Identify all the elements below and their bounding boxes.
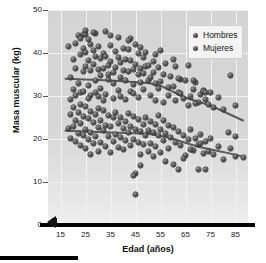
data-point — [178, 91, 183, 96]
data-point — [83, 146, 88, 151]
data-point — [123, 97, 128, 102]
data-point — [191, 87, 196, 92]
data-point — [166, 93, 171, 98]
data-point — [113, 110, 118, 115]
data-point — [71, 87, 76, 92]
data-point — [103, 54, 108, 59]
data-point — [131, 173, 136, 178]
data-point — [91, 48, 96, 53]
x-tick-label: 55 — [149, 231, 173, 239]
data-point — [81, 114, 86, 119]
data-point — [196, 167, 201, 172]
data-point — [71, 105, 76, 110]
data-point — [221, 157, 226, 162]
data-point — [163, 159, 168, 164]
data-point — [98, 86, 103, 91]
legend-marker-icon — [193, 46, 198, 51]
data-point — [136, 140, 141, 145]
data-point — [138, 163, 143, 168]
y-tick-label: 10 — [18, 178, 42, 186]
data-point — [121, 126, 126, 131]
data-point — [113, 65, 118, 70]
data-point — [186, 137, 191, 142]
y-tick-label: 0 — [18, 221, 42, 229]
data-point — [176, 76, 181, 81]
data-point — [123, 119, 128, 124]
data-point — [156, 86, 161, 91]
data-point — [171, 125, 176, 130]
data-point — [98, 118, 103, 123]
data-point — [93, 78, 98, 83]
data-point — [191, 78, 196, 83]
data-point — [111, 70, 116, 75]
data-point — [171, 162, 176, 167]
data-point — [91, 141, 96, 146]
data-point — [141, 142, 146, 147]
data-point — [106, 77, 111, 82]
data-point — [198, 141, 203, 146]
data-point — [81, 89, 86, 94]
data-point — [208, 90, 213, 95]
data-point — [86, 137, 91, 142]
data-point — [138, 45, 143, 50]
data-point — [151, 59, 156, 64]
data-point — [96, 94, 101, 99]
scatter-plot-figure: Masa muscular (kg) 50403020100 Hombres M… — [0, 0, 266, 263]
data-point — [73, 41, 78, 46]
data-point — [206, 149, 211, 154]
data-point — [86, 83, 91, 88]
data-point — [128, 58, 133, 63]
data-point — [71, 57, 76, 62]
data-point — [146, 128, 151, 133]
data-point — [136, 117, 141, 122]
data-point — [101, 98, 106, 103]
data-point — [141, 55, 146, 60]
data-point — [136, 95, 141, 100]
data-point — [96, 106, 101, 111]
data-point — [216, 144, 221, 149]
data-point — [126, 69, 131, 74]
data-point — [118, 60, 123, 65]
caption-rule — [0, 256, 78, 260]
data-point — [203, 167, 208, 172]
data-point — [141, 71, 146, 76]
data-point — [181, 96, 186, 101]
plot-area: Hombres Mujeres — [48, 10, 248, 225]
data-point — [133, 62, 138, 67]
data-point — [138, 152, 143, 157]
data-point — [171, 57, 176, 62]
data-point — [96, 67, 101, 72]
data-point — [111, 96, 116, 101]
data-point — [233, 154, 238, 159]
data-point — [86, 58, 91, 63]
data-point — [186, 63, 191, 68]
legend-label-mujeres: Mujeres — [203, 44, 233, 53]
data-point — [106, 72, 111, 77]
data-point — [158, 127, 163, 132]
data-point — [141, 122, 146, 127]
data-point — [121, 68, 126, 73]
data-point — [131, 114, 136, 119]
data-point — [91, 120, 96, 125]
data-point — [176, 129, 181, 134]
data-point — [93, 112, 98, 117]
data-point — [116, 145, 121, 150]
data-point — [203, 90, 208, 95]
data-point — [138, 129, 143, 134]
data-point — [103, 29, 108, 34]
axis-break-arrow-tail-icon — [52, 218, 57, 227]
data-point — [131, 82, 136, 87]
y-tick-label: 40 — [18, 49, 42, 57]
data-point — [161, 118, 166, 123]
legend-label-hombres: Hombres — [203, 31, 237, 40]
data-point — [106, 63, 111, 68]
data-point — [86, 116, 91, 121]
data-point — [126, 111, 131, 116]
data-point — [156, 65, 161, 70]
x-tick-label: 25 — [74, 231, 98, 239]
data-point — [171, 84, 176, 89]
data-point — [151, 130, 156, 135]
data-point — [108, 33, 113, 38]
data-point — [121, 147, 126, 152]
x-tick-label: 85 — [224, 231, 248, 239]
